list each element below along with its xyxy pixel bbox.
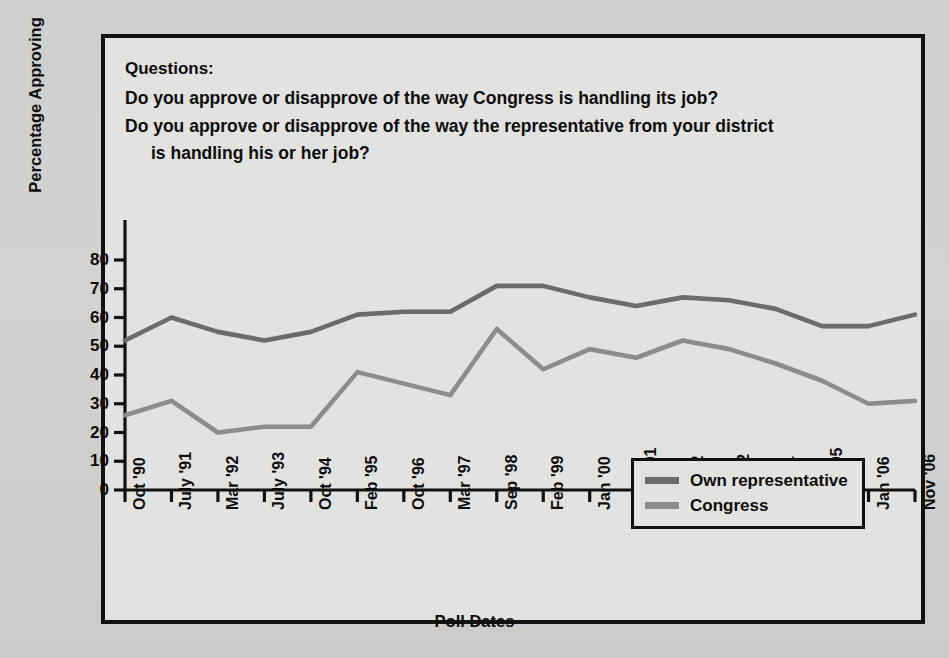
legend-label-own-representative: Own representative [690,471,848,491]
x-axis-tick-label: Jan '00 [596,456,614,510]
y-axis-tick-label: 10 [67,451,109,471]
y-axis-tick-label: 50 [67,336,109,356]
legend-label-congress: Congress [690,496,768,516]
y-axis-title: Percentage Approving [22,0,48,240]
x-axis-tick-label: Oct '96 [410,457,428,510]
y-axis-tick-label: 60 [67,308,109,328]
x-axis-tick-label: Jan '06 [875,456,893,510]
chart-frame: Questions: Do you approve or disapprove … [101,34,925,624]
legend-item-congress: Congress [645,493,848,518]
y-axis-tick-label: 0 [67,480,109,500]
x-axis-tick-label: Nov '06 [921,454,939,510]
question-own-representative: Do you approve or disapprove of the way … [125,115,885,138]
y-axis-tick-label: 40 [67,365,109,385]
legend-swatch-congress [645,502,679,509]
question-congress: Do you approve or disapprove of the way … [125,87,885,110]
y-axis-tick-label: 70 [67,279,109,299]
question-own-representative-continued: is handling his or her job? [125,142,885,165]
x-axis-tick-label: Mar '97 [456,456,474,511]
x-axis-title: Poll Dates [0,612,949,631]
x-axis-tick-label: Oct '90 [131,457,149,510]
legend-item-own-representative: Own representative [645,468,848,493]
x-axis-tick-label: Feb '99 [549,456,567,511]
questions-block: Questions: Do you approve or disapprove … [125,58,885,170]
x-axis-tick-label: Mar '92 [224,456,242,511]
x-axis-tick-label: Sep '98 [503,455,521,510]
y-axis-tick-label: 20 [67,423,109,443]
x-axis-tick-label: Feb '95 [363,456,381,511]
chart-legend: Own representative Congress [631,458,865,529]
y-axis-tick-label: 80 [67,250,109,270]
questions-heading: Questions: [125,58,885,80]
series-line-own-representative [125,286,915,341]
page-background: Questions: Do you approve or disapprove … [0,0,949,658]
data-series-group [125,286,915,433]
legend-swatch-own-representative [645,477,679,484]
series-line-congress [125,329,915,433]
x-axis-tick-label: July '91 [177,452,195,510]
x-axis-tick-label: Oct '94 [317,457,335,510]
y-axis-title-wrap: Percentage Approving [0,0,60,540]
y-axis-tick-label: 30 [67,394,109,414]
x-axis-tick-label: July '93 [270,452,288,510]
